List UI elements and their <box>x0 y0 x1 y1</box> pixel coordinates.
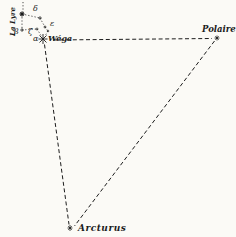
vega-star-icon <box>39 34 48 44</box>
lyra-star-delta-icon <box>38 16 42 20</box>
line-vega-arcturus <box>45 45 70 225</box>
triangle-sight-lines <box>45 39 215 227</box>
star-label-delta: δ <box>33 5 38 13</box>
lyra-star-gamma-icon <box>20 12 25 17</box>
arcturus-name-label: Arcturus <box>78 224 126 233</box>
vega-name-label: Wéga <box>48 34 72 42</box>
polaris-star-icon <box>215 36 220 41</box>
lyra-star-zeta-icon <box>36 28 39 31</box>
star-label-beta: β <box>14 28 19 36</box>
lyra-star-epsilon1-icon <box>44 26 47 29</box>
star-label-epsilon: ε <box>50 20 54 28</box>
lyra-star-beta-icon <box>20 28 24 32</box>
star-chart-figure: La Lyre δ ε β ζ α Wéga Polaire Arcturus <box>0 0 236 237</box>
star-label-alpha: α <box>33 35 38 43</box>
polaris-name-label: Polaire <box>202 25 236 34</box>
star-label-zeta: ζ <box>28 28 32 36</box>
line-vega-polaris <box>53 39 212 41</box>
arcturus-star-icon <box>68 225 73 231</box>
line-polaris-arcturus <box>75 41 215 226</box>
